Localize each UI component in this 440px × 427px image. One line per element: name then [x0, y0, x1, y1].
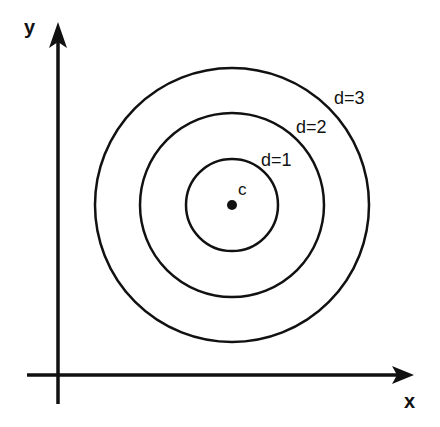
label-d2: d=2	[296, 117, 327, 137]
label-d3: d=3	[334, 88, 365, 108]
y-axis-label: y	[24, 16, 36, 38]
center-label: c	[238, 180, 247, 199]
label-d1: d=1	[261, 150, 292, 170]
y-axis: y	[24, 16, 67, 404]
x-axis-label: x	[404, 390, 415, 412]
center-point	[227, 200, 237, 210]
diagram-canvas: y x c d=1 d=2 d=3	[0, 0, 440, 427]
x-axis: x	[27, 366, 415, 412]
